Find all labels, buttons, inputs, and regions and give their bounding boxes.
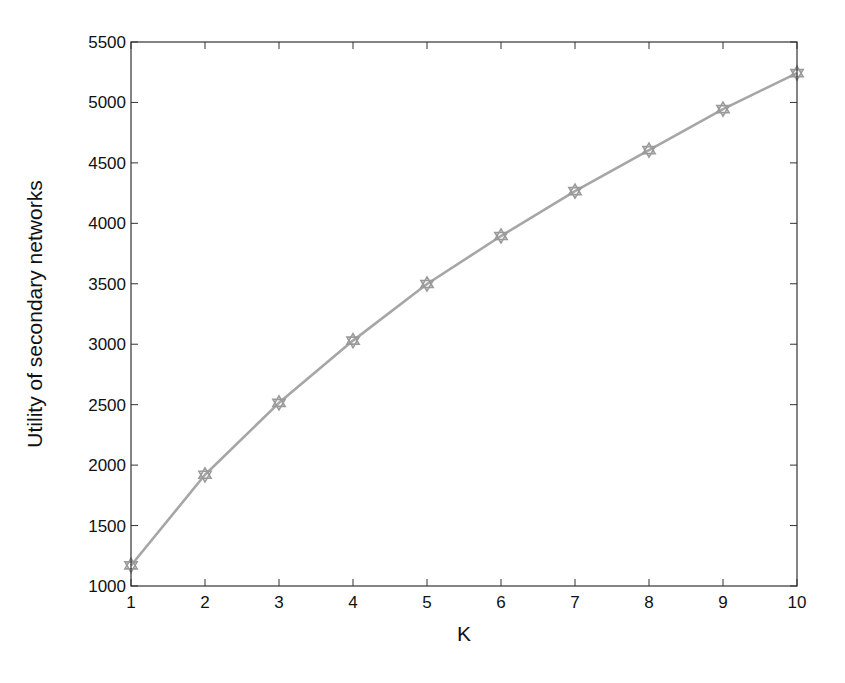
- x-tick-label: 6: [496, 593, 505, 612]
- series-line: [131, 73, 797, 565]
- tick-labels: 1234567891010001500200025003000350040004…: [88, 33, 806, 612]
- y-tick-label: 4500: [88, 154, 126, 173]
- y-tick-label: 2500: [88, 396, 126, 415]
- x-tick-label: 7: [570, 593, 579, 612]
- y-tick-label: 5500: [88, 33, 126, 52]
- series-layer: [125, 66, 803, 572]
- y-tick-label: 4000: [88, 214, 126, 233]
- x-tick-label: 1: [126, 593, 135, 612]
- x-tick-label: 4: [348, 593, 357, 612]
- x-tick-label: 8: [644, 593, 653, 612]
- y-tick-label: 3000: [88, 335, 126, 354]
- x-tick-label: 3: [274, 593, 283, 612]
- y-tick-label: 3500: [88, 275, 126, 294]
- y-tick-label: 2000: [88, 456, 126, 475]
- x-axis-title: K: [457, 622, 471, 645]
- x-tick-label: 2: [200, 593, 209, 612]
- y-axis-title: Utility of secondary networks: [23, 180, 46, 447]
- y-tick-label: 1000: [88, 577, 126, 596]
- x-tick-label: 10: [788, 593, 807, 612]
- y-tick-label: 1500: [88, 517, 126, 536]
- x-tick-label: 9: [718, 593, 727, 612]
- line-chart: 1234567891010001500200025003000350040004…: [0, 0, 845, 683]
- x-tick-label: 5: [422, 593, 431, 612]
- y-tick-label: 5000: [88, 93, 126, 112]
